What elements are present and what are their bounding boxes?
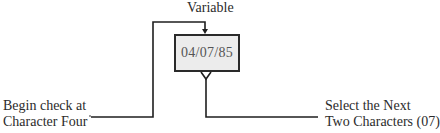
start-annotation-line2: Character Four [3,114,87,130]
selection-connector [206,79,318,117]
start-annotation-line1: Begin check at [3,98,87,114]
start-dot [89,115,91,117]
selection-annotation-line2: Two Characters (07) [325,114,440,130]
variable-box: 04/07/85 [174,34,240,72]
variable-title: Variable [187,0,234,16]
selection-annotation-line1: Select the Next [325,98,440,114]
selection-annotation: Select the Next Two Characters (07) [325,98,440,130]
start-annotation: Begin check at Character Four [3,98,87,130]
selection-fork-icon [201,72,211,79]
variable-value: 04/07/85 [181,45,233,61]
